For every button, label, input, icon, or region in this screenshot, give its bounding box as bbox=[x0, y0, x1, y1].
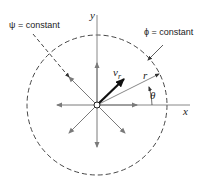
theta-label: θ bbox=[150, 89, 155, 101]
vr-label: vr bbox=[113, 66, 121, 81]
radial-arrow-down-left bbox=[69, 105, 97, 133]
y-axis-label: y bbox=[90, 9, 95, 21]
vr-label-sub: r bbox=[118, 72, 121, 81]
velocity-vr-arrow bbox=[98, 79, 124, 104]
radial-arrow-down-right bbox=[97, 105, 125, 133]
psi-constant-streamline bbox=[33, 34, 69, 77]
r-label: r bbox=[143, 69, 147, 81]
psi-constant-label: ψ = constant bbox=[9, 20, 60, 30]
source-flow-diagram: ψ = constant ϕ = constant y x r θ vr bbox=[0, 0, 201, 189]
radial-arrow-up-left bbox=[69, 77, 97, 105]
source-point bbox=[94, 102, 100, 108]
phi-constant-label: ϕ = constant bbox=[144, 27, 193, 37]
phi-label-pointer bbox=[148, 45, 163, 60]
x-axis-label: x bbox=[183, 105, 188, 117]
